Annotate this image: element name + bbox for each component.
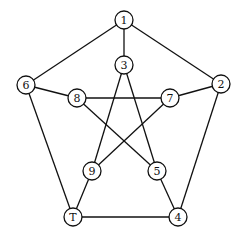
- node-label: 6: [23, 79, 30, 92]
- node-label: 2: [218, 78, 225, 91]
- node-label: 3: [121, 59, 128, 72]
- node-label: 7: [167, 92, 174, 105]
- node-label: T: [69, 211, 77, 224]
- edge-1-6: [26, 20, 124, 85]
- node-4: 4: [169, 208, 187, 226]
- edge-3-9: [92, 65, 124, 171]
- edge-7-9: [92, 98, 170, 171]
- node-label: 5: [154, 165, 161, 178]
- edge-1-2: [124, 20, 221, 84]
- graph-diagram: 123456789T: [0, 0, 244, 239]
- node-3: 3: [115, 56, 133, 74]
- edges-group: [26, 20, 221, 217]
- node-6: 6: [17, 76, 35, 94]
- node-9: 9: [83, 162, 101, 180]
- edge-6-T: [26, 85, 73, 217]
- node-label: 1: [121, 14, 128, 27]
- node-label: 4: [175, 211, 182, 224]
- node-label: 8: [74, 92, 81, 105]
- edge-2-4: [178, 84, 221, 217]
- node-7: 7: [161, 89, 179, 107]
- node-label: 9: [89, 165, 96, 178]
- node-2: 2: [212, 75, 230, 93]
- node-1: 1: [115, 11, 133, 29]
- node-T: T: [64, 208, 82, 226]
- node-8: 8: [68, 89, 86, 107]
- node-5: 5: [148, 162, 166, 180]
